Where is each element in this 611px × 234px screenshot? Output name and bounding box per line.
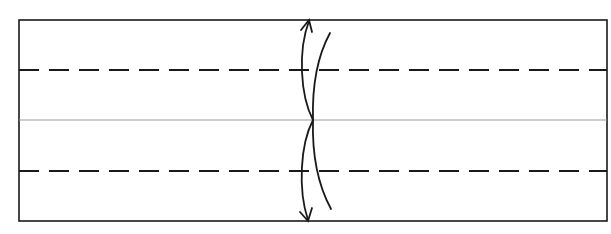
folding-diagram xyxy=(0,0,611,234)
